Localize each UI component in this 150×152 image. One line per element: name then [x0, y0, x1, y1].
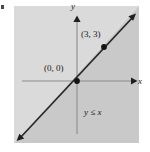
point-marker-3-3 — [101, 44, 107, 50]
point-marker-origin — [74, 78, 80, 84]
graph-canvas — [0, 0, 150, 152]
inequality-graph-figure: y x (0, 0) (3, 3) y ≤ x — [0, 0, 150, 152]
point-label-origin: (0, 0) — [44, 64, 64, 73]
point-label-3-3: (3, 3) — [81, 30, 101, 39]
scan-artifact-mark — [1, 5, 4, 9]
x-axis-label: x — [138, 77, 142, 86]
inequality-region-label: y ≤ x — [84, 108, 101, 117]
y-axis-label: y — [71, 2, 75, 11]
